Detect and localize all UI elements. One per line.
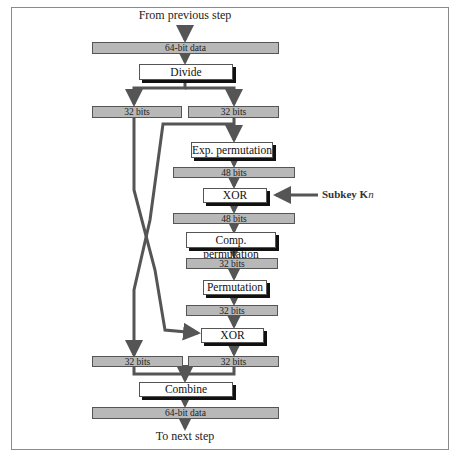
subkey-prefix: Subkey K — [322, 188, 368, 200]
right-half-out-block: 32 bits — [188, 356, 279, 367]
bits48-b-block: 48 bits — [173, 213, 295, 224]
left-half-in-block: 32 bits — [92, 106, 182, 118]
xor1-box: XOR — [203, 188, 267, 203]
subkey-label: Subkey Kn — [322, 188, 374, 200]
right-half-in-block: 32 bits — [188, 106, 279, 118]
left-half-out-block: 32 bits — [92, 356, 183, 367]
subkey-subscript: n — [368, 188, 374, 200]
comp-permutation-box: Comp. permutation — [186, 232, 276, 248]
xor2-box: XOR — [201, 328, 264, 343]
bits32-b-block: 32 bits — [186, 305, 278, 316]
output-64bit-block: 64-bit data — [92, 407, 279, 419]
bits32-a-block: 32 bits — [186, 258, 278, 269]
input-64bit-block: 64-bit data — [92, 42, 279, 54]
exp-permutation-box: Exp. permutation — [191, 142, 273, 158]
combine-box: Combine — [139, 382, 233, 397]
to-next-step-label: To next step — [145, 429, 225, 444]
permutation-box: Permutation — [203, 280, 267, 295]
divide-box: Divide — [139, 64, 233, 80]
from-previous-step-label: From previous step — [135, 8, 235, 23]
bits48-a-block: 48 bits — [173, 167, 295, 178]
